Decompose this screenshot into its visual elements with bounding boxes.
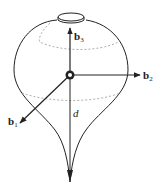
label-b2: b2 [143,70,153,83]
dashed-contours [22,23,120,101]
label-d: d [73,108,79,119]
spinning-top-diagram [0,0,160,187]
top-body [14,20,128,182]
label-b3: b3 [74,31,84,44]
tip-arrowhead [67,170,73,182]
b1-axis-arrow [20,75,70,123]
label-b1: b1 [8,116,18,129]
stem-cap [58,13,84,23]
center-of-mass-icon [66,71,75,80]
